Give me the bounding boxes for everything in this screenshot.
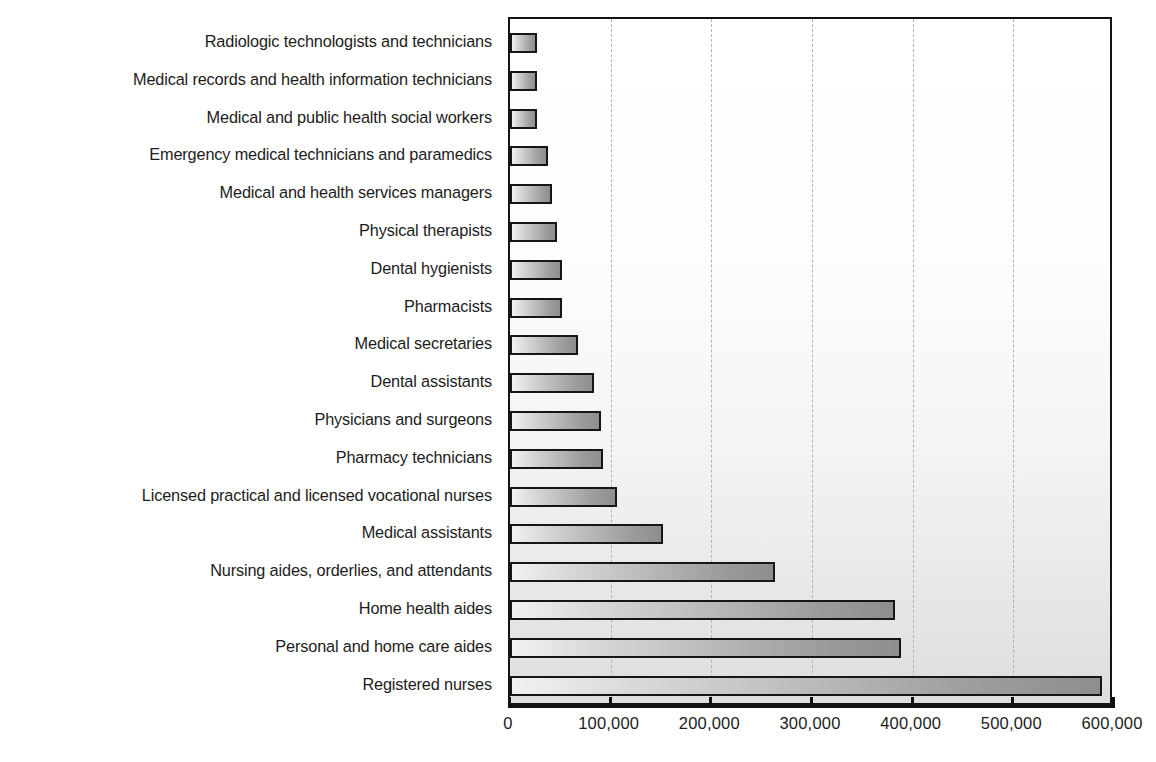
x-tick-label: 500,000 xyxy=(981,712,1042,734)
x-tick-mark xyxy=(508,697,511,708)
category-label: Medical assistants xyxy=(0,522,492,542)
category-label: Dental assistants xyxy=(0,371,492,391)
bar xyxy=(510,600,895,620)
category-label: Physicians and surgeons xyxy=(0,409,492,429)
bar xyxy=(510,562,775,582)
bar xyxy=(510,373,594,393)
bar xyxy=(510,411,601,431)
gridline xyxy=(913,19,914,703)
x-tick-label: 200,000 xyxy=(679,712,740,734)
bar xyxy=(510,146,548,166)
category-label: Emergency medical technicians and parame… xyxy=(0,144,492,164)
bar xyxy=(510,335,578,355)
x-axis-line xyxy=(508,705,1112,708)
x-tick-mark xyxy=(709,697,712,708)
x-axis-tick-labels: 0100,000200,000300,000400,000500,000600,… xyxy=(0,712,1156,742)
category-label: Nursing aides, orderlies, and attendants xyxy=(0,560,492,580)
category-label: Personal and home care aides xyxy=(0,636,492,656)
category-label: Medical and health services managers xyxy=(0,182,492,202)
bar xyxy=(510,71,537,91)
bar xyxy=(510,298,562,318)
category-label: Medical and public health social workers xyxy=(0,107,492,127)
category-label: Dental hygienists xyxy=(0,258,492,278)
category-label: Radiologic technologists and technicians xyxy=(0,31,492,51)
bar xyxy=(510,222,557,242)
x-tick-mark xyxy=(911,697,914,708)
category-label: Licensed practical and licensed vocation… xyxy=(0,485,492,505)
category-label: Medical secretaries xyxy=(0,333,492,353)
gridline xyxy=(1013,19,1014,703)
x-tick-label: 0 xyxy=(503,712,512,734)
x-tick-label: 400,000 xyxy=(880,712,941,734)
x-tick-mark xyxy=(810,697,813,708)
category-label: Registered nurses xyxy=(0,674,492,694)
x-tick-mark xyxy=(609,697,612,708)
plot-area xyxy=(508,17,1112,705)
bar xyxy=(510,676,1102,696)
bar xyxy=(510,638,901,658)
bar xyxy=(510,487,617,507)
bar xyxy=(510,524,663,544)
x-tick-mark xyxy=(1011,697,1014,708)
category-label: Physical therapists xyxy=(0,220,492,240)
x-tick-label: 300,000 xyxy=(779,712,840,734)
category-label: Medical records and health information t… xyxy=(0,69,492,89)
x-tick-label: 100,000 xyxy=(578,712,639,734)
bar xyxy=(510,109,537,129)
horizontal-bar-chart: Radiologic technologists and technicians… xyxy=(0,0,1156,762)
x-tick-label: 600,000 xyxy=(1081,712,1142,734)
category-label: Pharmacy technicians xyxy=(0,447,492,467)
x-tick-mark xyxy=(1112,697,1115,708)
bar xyxy=(510,33,537,53)
category-label: Home health aides xyxy=(0,598,492,618)
category-label: Pharmacists xyxy=(0,296,492,316)
bar xyxy=(510,184,552,204)
bar xyxy=(510,449,603,469)
bar xyxy=(510,260,562,280)
y-axis-category-labels: Radiologic technologists and technicians… xyxy=(0,17,500,705)
